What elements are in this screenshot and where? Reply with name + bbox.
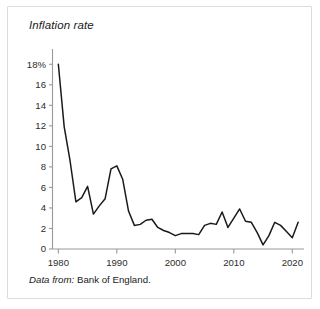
y-axis-tick-label: 12 xyxy=(35,120,46,131)
y-axis-tick-label: 8 xyxy=(41,161,46,172)
source-note: Data from: Bank of England. xyxy=(29,274,151,285)
x-axis: 19801990200020102020 xyxy=(48,249,304,268)
line-chart-plot: 024681012141618% 19801990200020102020 xyxy=(8,7,313,300)
y-axis-tick-label: 2 xyxy=(41,223,46,234)
chart-svg: 024681012141618% 19801990200020102020 xyxy=(8,7,313,300)
inflation-rate-line xyxy=(58,64,298,245)
y-axis-tick-label: 10 xyxy=(35,141,46,152)
x-axis-tick-label: 2020 xyxy=(282,257,303,268)
source-label: Data from: xyxy=(29,274,74,285)
data-series-inflation-rate xyxy=(58,64,298,245)
y-axis-tick-label: 6 xyxy=(41,182,46,193)
y-axis-tick-label: 16 xyxy=(35,79,46,90)
figure-card: Inflation rate 024681012141618% 19801990… xyxy=(7,6,312,299)
y-axis-tick-label: 4 xyxy=(41,202,47,213)
x-axis-tick-label: 1990 xyxy=(106,257,127,268)
x-axis-tick-label: 2010 xyxy=(223,257,244,268)
x-axis-tick-label: 1980 xyxy=(48,257,69,268)
y-axis-tick-label: 18% xyxy=(27,59,47,70)
source-value-text: Bank of England. xyxy=(77,274,151,285)
y-axis: 024681012141618% xyxy=(27,49,53,254)
x-axis-tick-label: 2000 xyxy=(165,257,186,268)
y-axis-tick-label: 0 xyxy=(41,243,46,254)
y-axis-tick-label: 14 xyxy=(35,100,46,111)
